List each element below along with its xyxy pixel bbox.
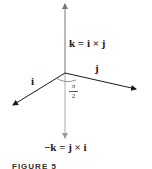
angle-numerator: π [72, 82, 76, 90]
i-label: i [31, 75, 34, 87]
j-label: j [95, 62, 99, 74]
neg-k-equation-label: −k = j × i [44, 141, 87, 153]
figure-caption: FIGURE 5 [12, 162, 57, 169]
angle-denominator: 2 [72, 92, 76, 100]
k-equation-label: k = i × j [69, 37, 105, 49]
i-vector [13, 73, 65, 105]
angle-fraction: π 2 [69, 83, 78, 100]
